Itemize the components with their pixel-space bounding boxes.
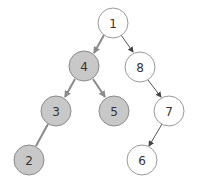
node-1: 1: [98, 8, 128, 38]
node-6: 6: [127, 145, 157, 175]
node-label: 1: [109, 17, 117, 31]
node-4: 4: [69, 51, 99, 81]
edge-8-7: [148, 80, 161, 97]
edge-7-6: [149, 124, 162, 146]
node-label: 3: [52, 105, 60, 119]
node-label: 2: [25, 154, 33, 168]
edge-4-5: [93, 79, 105, 97]
node-8: 8: [125, 52, 155, 82]
node-label: 6: [138, 154, 146, 168]
node-7: 7: [154, 96, 184, 126]
node-label: 5: [110, 105, 118, 119]
edge-1-4: [94, 35, 104, 53]
edge-1-8: [121, 35, 133, 52]
edge-3-2: [36, 124, 48, 146]
edge-4-3: [65, 79, 75, 97]
tree-diagram: 1 4 8 3 5 7 2 6: [0, 0, 197, 183]
node-label: 7: [165, 105, 173, 119]
node-label: 4: [80, 60, 88, 74]
node-3: 3: [41, 96, 71, 126]
node-label: 8: [136, 61, 144, 75]
node-2: 2: [14, 145, 44, 175]
node-5: 5: [99, 96, 129, 126]
